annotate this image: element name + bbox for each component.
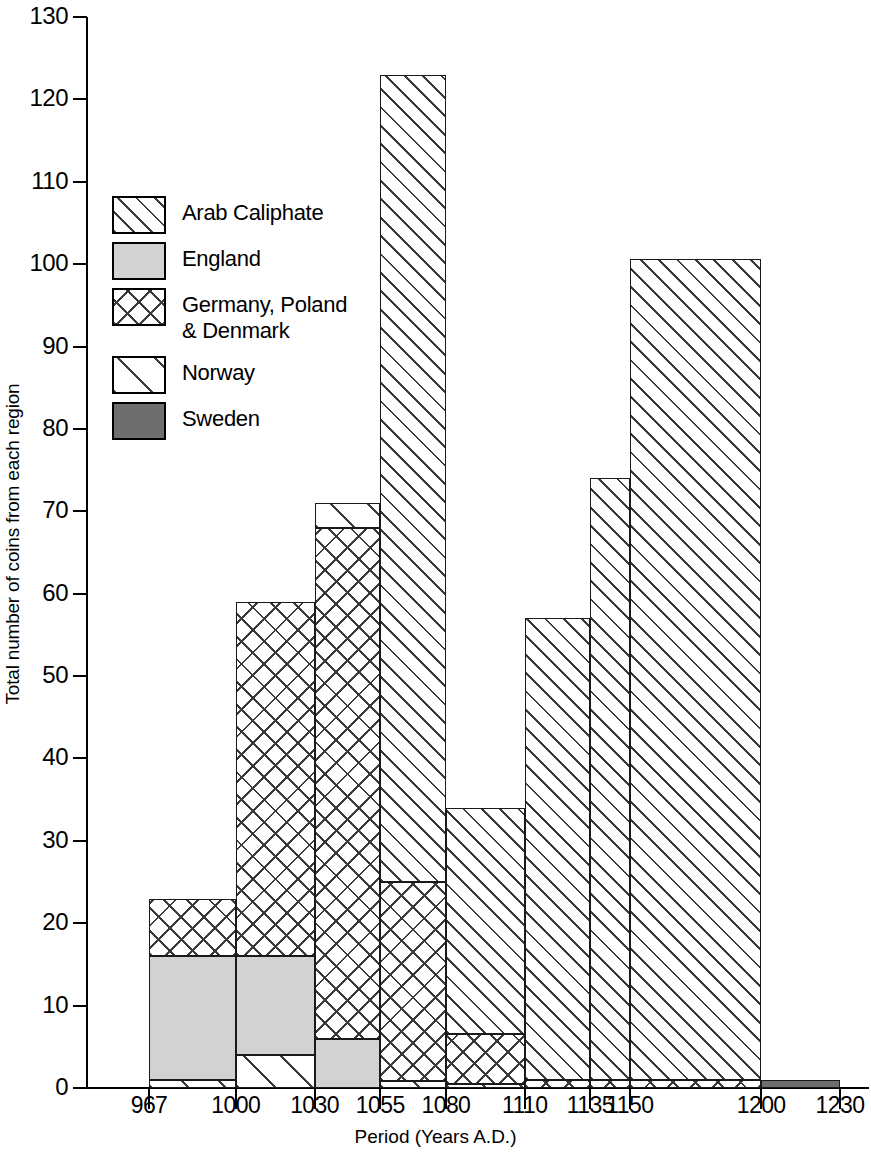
x-tick-label: 1000 (211, 1092, 260, 1118)
x-tick-label: 1055 (356, 1092, 405, 1118)
chart-legend: Arab CaliphateEnglandGermany, Poland & D… (112, 196, 412, 448)
x-tick-label: 1080 (422, 1092, 471, 1118)
legend-item-label: Arab Caliphate (182, 196, 323, 226)
x-tick-label: 1110 (502, 1092, 547, 1118)
bar-1135-1150 (590, 478, 629, 1088)
x-tick-label: 1030 (290, 1092, 339, 1118)
bar-segment (446, 808, 525, 1035)
y-tick-label: 80 (2, 416, 68, 440)
y-tick-mark (73, 593, 87, 595)
bar-segment (590, 1080, 629, 1088)
legend-swatch-icon (112, 242, 166, 280)
legend-swatch-icon (112, 196, 166, 234)
y-tick-label: 0 (2, 1075, 68, 1099)
legend-swatch-icon (112, 402, 166, 440)
y-tick-mark (73, 1087, 87, 1089)
y-tick-mark (73, 16, 87, 18)
y-tick-mark (73, 922, 87, 924)
y-tick-label: 90 (2, 334, 68, 358)
y-tick-label: 20 (2, 910, 68, 934)
bar-1110-1135 (525, 618, 591, 1088)
y-tick-label: 70 (2, 498, 68, 522)
y-tick-label: 10 (2, 993, 68, 1017)
x-tick-label: 1150 (606, 1092, 653, 1118)
y-tick-label: 110 (2, 169, 68, 193)
bar-1030-1055 (315, 503, 381, 1088)
y-tick-label: 60 (2, 581, 68, 605)
x-tick-label: 1230 (816, 1092, 865, 1118)
legend-item-label: Germany, Poland & Denmark (182, 288, 347, 344)
y-tick-label: 120 (2, 86, 68, 110)
y-tick-mark (73, 181, 87, 183)
legend-item: Norway (112, 356, 412, 396)
legend-item-label: Norway (182, 356, 255, 386)
plot-area (86, 17, 869, 1088)
bar-segment (236, 956, 315, 1055)
legend-item: Sweden (112, 402, 412, 442)
legend-item-label: Sweden (182, 402, 260, 432)
y-tick-mark (73, 428, 87, 430)
y-tick-label: 100 (2, 251, 68, 275)
bar-segment (236, 1055, 315, 1088)
bar-1080-1110 (446, 808, 525, 1088)
legend-item: England (112, 242, 412, 282)
legend-swatch-icon (112, 288, 166, 326)
y-tick-mark (73, 346, 87, 348)
x-tick-label: 967 (131, 1092, 168, 1118)
bar-segment (149, 899, 236, 957)
y-tick-label: 50 (2, 663, 68, 687)
y-tick-mark (73, 757, 87, 759)
bar-segment (525, 618, 591, 1079)
bar-segment (446, 1084, 525, 1088)
x-tick-label: 1200 (737, 1092, 786, 1118)
bar-segment (761, 1080, 840, 1088)
y-tick-mark (73, 840, 87, 842)
legend-swatch-icon (112, 356, 166, 394)
bar-segment (525, 1080, 591, 1088)
y-tick-mark (73, 1005, 87, 1007)
y-axis-tick-labels: 0102030405060708090100110120130 (0, 0, 68, 1158)
y-tick-label: 30 (2, 828, 68, 852)
y-tick-mark (73, 510, 87, 512)
y-tick-mark (73, 263, 87, 265)
bar-segment (630, 259, 761, 1080)
bar-segment (149, 1080, 236, 1088)
bar-segment (380, 882, 446, 1081)
bar-segment (446, 1034, 525, 1083)
bar-967-1000 (149, 899, 236, 1088)
bar-segment (315, 1039, 381, 1088)
bar-segment (236, 602, 315, 956)
bar-segment (149, 956, 236, 1080)
y-tick-mark (73, 98, 87, 100)
legend-item-label: England (182, 242, 261, 272)
bar-segment (380, 1081, 446, 1088)
y-tick-label: 40 (2, 745, 68, 769)
y-tick-mark (73, 675, 87, 677)
legend-item: Arab Caliphate (112, 196, 412, 236)
chart-figure: Total number of coins from each region P… (0, 0, 871, 1158)
bar-segment (630, 1080, 761, 1088)
bar-1200-1230 (761, 1080, 840, 1088)
bar-segment (315, 528, 381, 1039)
bar-1150-1200 (630, 259, 761, 1088)
legend-item: Germany, Poland & Denmark (112, 288, 412, 350)
y-tick-label: 130 (2, 4, 68, 28)
x-axis-title: Period (Years A.D.) (0, 1126, 871, 1148)
bar-1000-1030 (236, 602, 315, 1088)
bar-segment (315, 503, 381, 528)
bar-segment (590, 478, 629, 1079)
